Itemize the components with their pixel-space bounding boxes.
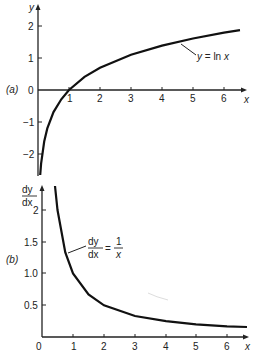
x-tick-label: 6 <box>224 341 230 352</box>
y-tick-label: 1.5 <box>24 237 38 248</box>
x-tick-label: 5 <box>190 93 196 104</box>
panel-label-b: (b) <box>6 254 18 265</box>
svg-text:x: x <box>115 249 122 260</box>
figure: y x (a) 2 1 0 −1 −2 1 2 3 4 5 6 y = ln x <box>0 0 263 364</box>
y-axis-arrow-icon <box>40 185 45 191</box>
scan-artifact <box>148 293 168 300</box>
x-tick-label: 3 <box>128 93 134 104</box>
x-tick-label: 1 <box>67 93 73 104</box>
x-tick-label: 4 <box>159 93 165 104</box>
panel-b: dy dx x (b) 2 1.5 1.0 0.5 0 1 2 3 4 5 6 … <box>6 184 251 352</box>
reciprocal-curve <box>55 186 247 327</box>
y-axis-arrow-icon <box>36 4 41 10</box>
x-axis-arrow-icon <box>241 88 247 93</box>
y-tick-label: 2 <box>28 21 34 32</box>
y-tick-label: 0.5 <box>24 300 38 311</box>
y-axis-label-a: y <box>28 2 35 13</box>
x-axis-arrow-icon <box>243 335 249 340</box>
x-axis-label-b: x <box>244 341 251 352</box>
svg-text:dy: dy <box>22 184 33 195</box>
annotation-leader <box>68 246 86 253</box>
y-tick-label: −2 <box>23 149 35 160</box>
svg-text:=: = <box>105 243 111 254</box>
y-tick-label: −1 <box>23 117 35 128</box>
y-tick-label: 1 <box>28 53 34 64</box>
x-tick-label: 2 <box>97 93 103 104</box>
x-tick-label: 0 <box>36 341 42 352</box>
y-tick-label: 0 <box>28 85 34 96</box>
reciprocal-annotation: dy dx = 1 x <box>88 236 123 260</box>
svg-text:dx: dx <box>22 197 33 208</box>
ln-annotation: y = ln x <box>196 51 230 62</box>
x-tick-label: 6 <box>221 93 227 104</box>
panel-a: y x (a) 2 1 0 −1 −2 1 2 3 4 5 6 y = ln x <box>6 2 250 176</box>
x-tick-label: 5 <box>193 341 199 352</box>
annotation-leader <box>181 44 196 55</box>
panel-label-a: (a) <box>6 84 18 95</box>
x-tick-label: 1 <box>71 341 77 352</box>
x-tick-label: 2 <box>101 341 107 352</box>
x-tick-label: 3 <box>132 341 138 352</box>
y-tick-label: 1.0 <box>24 268 38 279</box>
svg-text:dy: dy <box>88 236 99 247</box>
x-axis-label-a: x <box>243 94 250 105</box>
svg-text:dx: dx <box>88 249 99 260</box>
y-tick-label: 2 <box>33 205 39 216</box>
svg-text:1: 1 <box>116 236 122 247</box>
x-tick-label: 4 <box>163 341 169 352</box>
